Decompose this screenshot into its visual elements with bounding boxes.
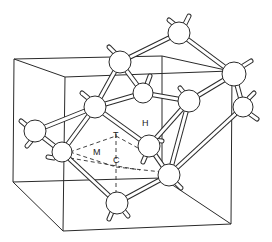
label-t: T [113, 130, 119, 140]
atom [133, 83, 153, 103]
atom [106, 192, 128, 214]
label-h: H [142, 118, 149, 128]
atom [168, 22, 190, 44]
label-c: C [113, 155, 120, 165]
atom [222, 62, 246, 86]
atom [84, 96, 106, 118]
bonds [35, 33, 243, 203]
atom [178, 90, 200, 112]
diagram-canvas: H T M C [0, 0, 272, 242]
atom [52, 142, 72, 162]
atom [158, 164, 180, 186]
lattice-diagram: H T M C [0, 0, 272, 242]
atom [24, 120, 46, 142]
atom [138, 135, 160, 157]
label-m: M [93, 147, 101, 157]
atom [233, 97, 253, 117]
atom [109, 51, 131, 73]
